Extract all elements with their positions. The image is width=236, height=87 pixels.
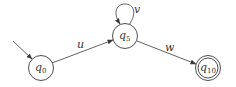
state-q10-base: q: [200, 61, 207, 74]
state-q5-base: q: [119, 29, 126, 42]
transition-q5-q10: w: [137, 41, 196, 64]
state-q10-sub: 10: [207, 67, 216, 75]
state-q10: q10: [196, 56, 221, 81]
state-q0-base: q: [35, 61, 42, 74]
state-q0-sub: 0: [42, 67, 46, 75]
state-q5: q5: [113, 24, 138, 49]
automaton-diagram: u v w q0 q5 q10: [0, 0, 236, 87]
transition-q5-loop: v: [116, 3, 141, 25]
transition-label-v: v: [134, 3, 141, 16]
state-q5-sub: 5: [126, 35, 130, 43]
state-q0: q0: [29, 56, 54, 81]
transition-label-w: w: [165, 41, 175, 54]
transition-q0-q5: u: [52, 38, 113, 63]
transition-label-u: u: [77, 38, 84, 51]
initial-arrow: [13, 41, 32, 59]
